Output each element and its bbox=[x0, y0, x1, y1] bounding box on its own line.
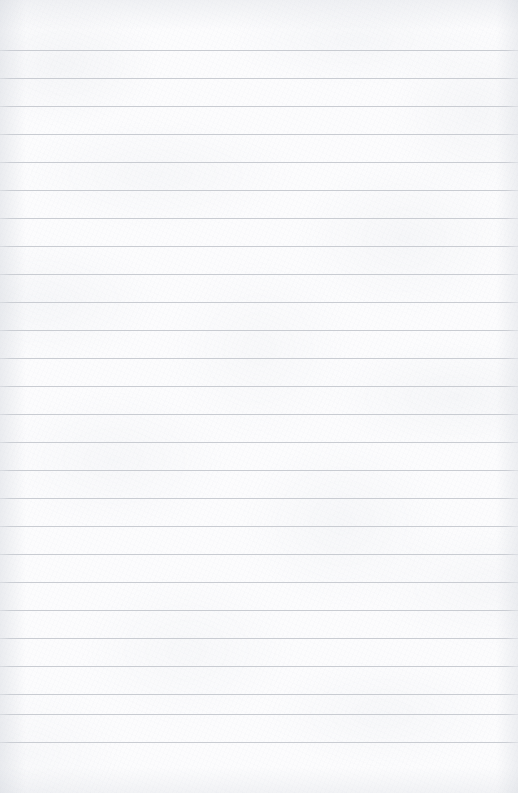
writing-area[interactable] bbox=[0, 0, 518, 793]
lined-paper-page bbox=[0, 0, 518, 793]
